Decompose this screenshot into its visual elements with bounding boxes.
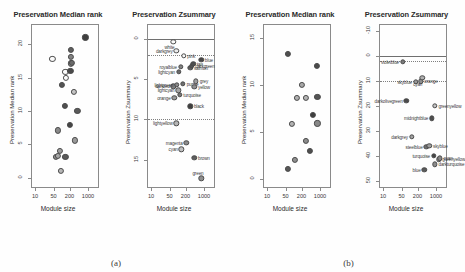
x-tick-label: 10	[373, 193, 393, 199]
y-tick-label: 0	[17, 170, 23, 184]
point-label: royalblue	[160, 64, 177, 69]
y-tick-label: 0	[365, 48, 371, 62]
x-tick-label: 200	[292, 193, 312, 199]
y-tick-label: 5	[17, 136, 23, 150]
y-tick-mark	[28, 78, 31, 79]
y-tick-mark	[260, 132, 263, 133]
y-tick-label: 10	[17, 103, 23, 117]
y-tick-mark	[376, 106, 379, 107]
point-label: blue	[205, 57, 213, 62]
y-axis-label: Preservation Median rank	[9, 76, 15, 144]
plot-median-rank-a: Preservation Median rank 051015201050200…	[0, 0, 116, 250]
y-tick-mark	[144, 79, 147, 80]
y-tick-mark	[28, 144, 31, 145]
panel-caption: (a)	[0, 258, 232, 268]
point-label: turquoise	[412, 153, 430, 158]
panel-caption: (b)	[232, 258, 465, 268]
point-label: cyan	[169, 147, 178, 152]
x-tick-label: 200	[60, 193, 80, 199]
point-label: magenta	[166, 140, 183, 145]
y-tick-label: 10	[365, 73, 371, 87]
point-label: lightyellow	[153, 121, 173, 126]
y-tick-mark	[376, 156, 379, 157]
y-tick-label: 40	[365, 148, 371, 162]
y-tick-mark	[376, 31, 379, 32]
x-tick-label: 10	[141, 193, 161, 199]
x-axis-label: Module size	[232, 205, 348, 212]
point-label: brown	[198, 156, 210, 161]
point-label: skyblue	[397, 79, 412, 84]
x-tick-mark	[35, 188, 36, 191]
x-tick-mark	[70, 188, 71, 191]
x-tick-label: 10	[257, 193, 277, 199]
panel-b: Preservation Median rank 051015105020010…	[232, 0, 465, 272]
x-tick-mark	[320, 188, 321, 191]
point-label: orange	[157, 95, 170, 100]
point-label: violetblue	[381, 59, 399, 64]
point-label: grey	[200, 79, 208, 84]
point-label: pink	[187, 53, 195, 58]
point-label: yellow	[198, 85, 210, 90]
y-tick-label: 10	[133, 111, 139, 125]
point-label: greenyellow	[439, 104, 462, 109]
x-tick-mark	[88, 188, 89, 191]
y-tick-mark	[376, 131, 379, 132]
point-label: black	[194, 104, 204, 109]
y-tick-mark	[28, 111, 31, 112]
panel-a: Preservation Median rank 051015201050200…	[0, 0, 232, 272]
point-label: cyan	[444, 156, 453, 161]
x-tick-label: 10	[25, 193, 45, 199]
y-tick-label: 15	[17, 70, 23, 84]
x-tick-mark	[418, 188, 419, 191]
y-tick-mark	[144, 39, 147, 40]
y-tick-label: 20	[365, 98, 371, 112]
point-label: orange	[424, 79, 437, 84]
x-tick-mark	[204, 188, 205, 191]
point-label: blue	[412, 168, 420, 173]
x-tick-mark	[151, 188, 152, 191]
y-tick-label: 0	[133, 31, 139, 45]
plot-median-rank-b: Preservation Median rank 051015105020010…	[232, 0, 348, 250]
plot-title: Preservation Zsummary	[116, 10, 232, 19]
x-tick-label: 200	[408, 193, 428, 199]
x-tick-mark	[402, 188, 403, 191]
y-tick-mark	[28, 178, 31, 179]
x-tick-label: 1000	[426, 193, 446, 199]
y-tick-label: 5	[249, 124, 255, 138]
x-axis-label: Module size	[348, 205, 464, 212]
point-label: darkturquoise	[439, 162, 465, 167]
point-label: lightgreen	[155, 82, 174, 87]
point-label: darkolivegreen	[375, 98, 403, 103]
plot-zsummary-b: Preservation Zsummary -10010203040501050…	[348, 0, 465, 250]
y-axis-label: Preservation Median rank	[241, 76, 247, 144]
y-tick-mark	[376, 181, 379, 182]
plot-title: Preservation Median rank	[0, 10, 116, 19]
y-tick-mark	[144, 160, 147, 161]
point-label: darkgrey	[391, 135, 408, 140]
y-tick-label: 5	[133, 71, 139, 85]
preservation-figure: Preservation Median rank 051015201050200…	[0, 0, 465, 272]
y-tick-label: 10	[249, 77, 255, 91]
y-tick-label: -10	[365, 23, 371, 37]
reference-line	[380, 56, 446, 57]
x-axis-label: Module size	[0, 205, 116, 212]
y-axis-label: Preservation Zsummary	[125, 80, 131, 144]
x-tick-label: 1000	[194, 193, 214, 199]
x-tick-mark	[170, 188, 171, 191]
y-tick-label: 15	[249, 30, 255, 44]
y-tick-mark	[376, 81, 379, 82]
x-tick-mark	[267, 188, 268, 191]
x-tick-mark	[302, 188, 303, 191]
point-label: steelblue	[406, 145, 423, 150]
y-tick-label: 0	[249, 171, 255, 185]
x-tick-mark	[286, 188, 287, 191]
x-tick-mark	[383, 188, 384, 191]
point-label: turquoise	[183, 93, 201, 98]
x-tick-label: 1000	[78, 193, 98, 199]
y-tick-label: 50	[365, 173, 371, 187]
y-tick-mark	[144, 119, 147, 120]
y-axis-label: Preservation Zsummary	[357, 80, 363, 144]
x-tick-mark	[186, 188, 187, 191]
point-label: green	[192, 170, 203, 175]
x-tick-label: 1000	[310, 193, 330, 199]
